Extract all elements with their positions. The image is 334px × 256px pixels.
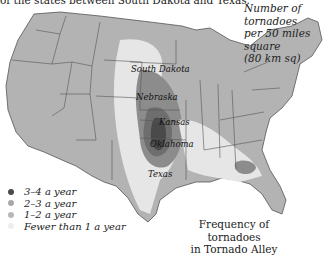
unit-note-line2: per 50 miles square xyxy=(244,27,334,52)
legend-row: 3–4 a year xyxy=(8,186,126,198)
legend-label: 1–2 a year xyxy=(24,209,76,220)
unit-note-line3: (80 km sq) xyxy=(244,52,334,65)
legend: 3–4 a year 2–3 a year 1–2 a year Fewer t… xyxy=(8,186,126,232)
swatch-under-1-icon xyxy=(8,223,14,229)
legend-label: Fewer than 1 a year xyxy=(24,221,126,232)
legend-row: 2–3 a year xyxy=(8,198,126,210)
swatch-3-4-icon xyxy=(8,189,14,195)
legend-label: 3–4 a year xyxy=(24,186,76,197)
legend-row: 1–2 a year xyxy=(8,209,126,221)
label-texas: Texas xyxy=(148,169,172,179)
map-title: Frequency of tornadoes in Tornado Alley xyxy=(176,218,292,256)
unit-note: Number of tornadoes per 50 miles square … xyxy=(244,2,334,65)
title-line1: Frequency of tornadoes xyxy=(176,218,292,243)
legend-row: Fewer than 1 a year xyxy=(8,221,126,233)
swatch-2-3-icon xyxy=(8,200,14,206)
label-kansas: Kansas xyxy=(159,117,190,127)
label-oklahoma: Oklahoma xyxy=(150,139,194,149)
label-south-dakota: South Dakota xyxy=(131,64,190,74)
label-nebraska: Nebraska xyxy=(136,92,178,102)
legend-label: 2–3 a year xyxy=(24,198,76,209)
swatch-1-2-icon xyxy=(8,212,14,218)
unit-note-line1: Number of tornadoes xyxy=(244,2,334,27)
title-line2: in Tornado Alley xyxy=(176,243,292,256)
